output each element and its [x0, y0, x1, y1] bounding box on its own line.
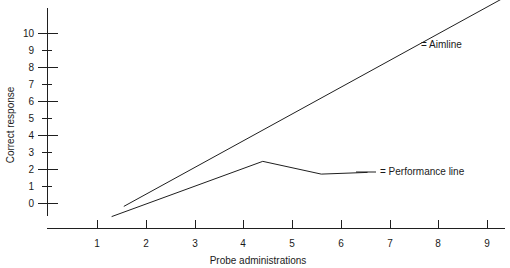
chart-container: 0 1 2 3 4 5 6 7 8 9 10 Correct response [0, 0, 510, 268]
x-axis-group: 1 2 3 4 5 6 7 8 9 Probe administrations [47, 220, 505, 266]
y-tick-label-2: 2 [28, 164, 34, 175]
y-tick-label-1: 1 [28, 181, 34, 192]
x-tick-label-9: 9 [484, 238, 490, 249]
y-axis-group: 0 1 2 3 4 5 6 7 8 9 10 Correct response [5, 8, 58, 216]
x-tick-label-3: 3 [192, 238, 198, 249]
y-axis-tick-labels: 0 1 2 3 4 5 6 7 8 9 10 [23, 28, 35, 209]
y-tick-label-3: 3 [28, 147, 34, 158]
y-tick-label-6: 6 [28, 96, 34, 107]
x-tick-label-8: 8 [435, 238, 441, 249]
x-axis-tick-labels: 1 2 3 4 5 6 7 8 9 [94, 238, 490, 249]
y-tick-label-10: 10 [23, 28, 35, 39]
y-tick-label-5: 5 [28, 113, 34, 124]
legend-label-aimline: = Aimline [421, 39, 462, 50]
y-axis-ticks [38, 33, 58, 203]
x-tick-label-6: 6 [338, 238, 344, 249]
legend-aimline: = Aimline [421, 39, 462, 50]
x-axis-title: Probe administrations [210, 255, 307, 266]
x-axis-ticks [97, 220, 487, 228]
x-tick-label-7: 7 [387, 238, 393, 249]
x-tick-label-4: 4 [240, 238, 246, 249]
x-tick-label-2: 2 [143, 238, 149, 249]
y-tick-label-9: 9 [28, 45, 34, 56]
legend-performance-line: = Performance line [356, 166, 465, 177]
y-tick-label-8: 8 [28, 62, 34, 73]
data-series-group [112, 0, 502, 217]
y-axis-title: Correct response [5, 86, 16, 163]
x-tick-label-5: 5 [289, 238, 295, 249]
x-tick-label-1: 1 [94, 238, 100, 249]
y-tick-label-0: 0 [28, 198, 34, 209]
chart-canvas: 0 1 2 3 4 5 6 7 8 9 10 Correct response [0, 0, 510, 268]
series-line-performance-line [112, 161, 368, 216]
y-tick-label-7: 7 [28, 79, 34, 90]
legend-label-performance-line: = Performance line [380, 166, 465, 177]
y-tick-label-4: 4 [28, 130, 34, 141]
